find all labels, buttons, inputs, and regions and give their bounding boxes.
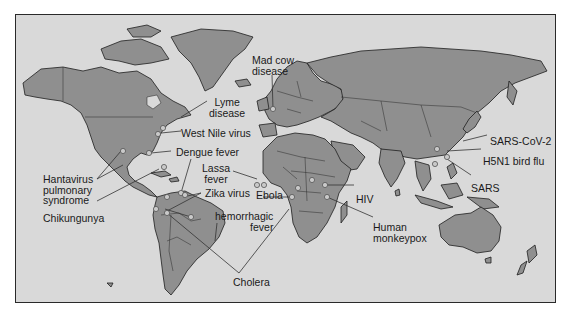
label-hiv: HIV	[356, 194, 374, 205]
label-chikungunya: Chikungunya	[43, 213, 104, 224]
marker-chikungunya	[161, 164, 166, 169]
marker-lassa	[254, 182, 259, 187]
indonesia	[415, 195, 453, 209]
marker-monkeypox	[324, 194, 329, 199]
label-hantavirus: Hantavirus pulmonary syndrome	[43, 174, 93, 206]
marker-ebola	[289, 194, 294, 199]
world-map: Mad cow disease Lyme disease West Nile v…	[15, 14, 556, 303]
marker-sars	[432, 161, 437, 166]
marker-west-nile	[155, 131, 160, 136]
label-cholera: Cholera	[233, 277, 270, 288]
marker-zika-1	[164, 194, 169, 199]
india	[379, 149, 405, 187]
marker-cholera-sa	[153, 206, 158, 211]
new-zealand	[527, 245, 537, 263]
south-america	[153, 191, 225, 295]
label-hemorrhagic-fever: hemorrhagic fever	[215, 211, 273, 232]
label-ebola: Ebola	[256, 190, 283, 201]
marker-lassa-2	[261, 182, 266, 187]
label-lassa-fever: Lassa fever	[202, 163, 230, 184]
marker-dengue	[146, 150, 151, 155]
marker-hemorrhagic-sa	[188, 214, 193, 219]
marker-zika-2	[182, 192, 187, 197]
marker-mad-cow	[270, 106, 275, 111]
marker-hiv	[322, 182, 327, 187]
label-human-monkeypox: Human monkeypox	[373, 222, 427, 243]
marker-hemorrhagic-af	[295, 185, 300, 190]
arctic-islands	[101, 39, 169, 65]
label-dengue-fever: Dengue fever	[176, 147, 239, 158]
australia	[439, 207, 501, 253]
marker-hantavirus	[120, 148, 125, 153]
marker-h5n1	[444, 154, 449, 159]
marker-lyme	[160, 125, 165, 130]
label-lyme-disease: Lyme disease	[209, 97, 245, 118]
label-h5n1-bird-flu: H5N1 bird flu	[483, 156, 544, 167]
marker-cholera-af	[309, 177, 314, 182]
label-west-nile-virus: West Nile virus	[181, 128, 251, 139]
label-zika-virus: Zika virus	[205, 188, 250, 199]
marker-sars-cov2	[434, 146, 439, 151]
marker-hantavirus-sa	[164, 210, 169, 215]
label-sars: SARS	[471, 183, 500, 194]
label-mad-cow: Mad cow disease	[252, 55, 294, 76]
label-sars-cov-2: SARS-CoV-2	[490, 136, 551, 147]
